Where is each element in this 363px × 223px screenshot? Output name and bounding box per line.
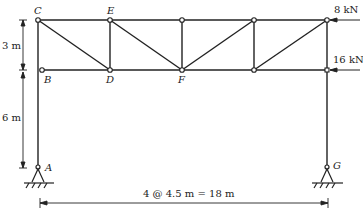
load-label-top: 8 kN <box>334 4 359 15</box>
diagonal-F-up <box>182 20 254 70</box>
joint-C <box>36 18 41 23</box>
label-D: D <box>105 74 114 85</box>
joint-top-3 <box>180 18 185 23</box>
joint-D <box>108 68 113 73</box>
label-E: E <box>106 5 115 16</box>
diagonal-EF <box>110 20 182 70</box>
support-A-icon <box>32 169 44 182</box>
diagonal-right <box>254 20 327 70</box>
joint-bottom-4 <box>252 68 257 73</box>
load-label-bottom: 16 kN <box>333 54 363 65</box>
label-G: G <box>333 160 341 171</box>
joint-B <box>40 68 45 73</box>
joint-top-4 <box>252 18 257 23</box>
label-A: A <box>44 162 52 173</box>
joint-E <box>108 18 113 23</box>
dim-upper-height: 3 m <box>2 40 22 51</box>
diagonal-CD <box>38 20 110 70</box>
label-C: C <box>34 5 42 16</box>
label-F: F <box>177 74 186 85</box>
label-B: B <box>43 74 51 85</box>
truss-diagram: C E B D F A G 8 kN 16 kN 3 m 6 m 4 @ 4.5… <box>0 0 363 223</box>
dim-lower-height: 6 m <box>2 112 22 123</box>
joint-F <box>180 68 185 73</box>
support-G-icon <box>321 169 333 182</box>
dim-span: 4 @ 4.5 m = 18 m <box>143 188 235 199</box>
